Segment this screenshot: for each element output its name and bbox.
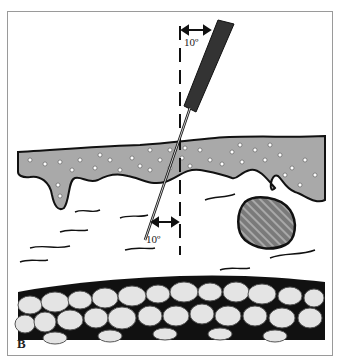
angle-arrow-bottom <box>152 218 178 226</box>
angle-label-top: 10º <box>184 36 198 48</box>
needle-hub <box>184 20 234 112</box>
epidermis-layer <box>18 136 325 209</box>
panel-label: B <box>17 336 26 352</box>
angle-label-bottom: 10º <box>146 233 160 245</box>
needle <box>145 20 234 240</box>
angle-arrow-top <box>182 26 210 34</box>
skin-injection-diagram <box>0 0 341 363</box>
nodule <box>238 197 295 248</box>
